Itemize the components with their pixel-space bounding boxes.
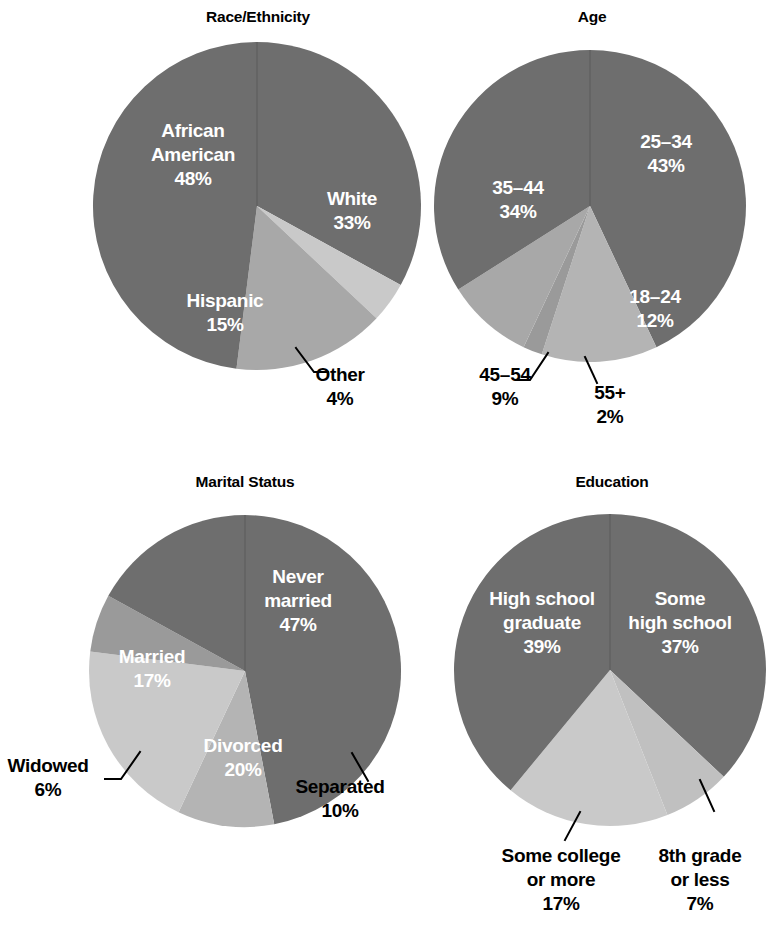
chart-title-education: Education xyxy=(575,473,648,490)
charts-canvas: Race/EthnicityWhite33%Other4%Hispanic15%… xyxy=(0,0,780,931)
pie-chart-race-ethnicity: Race/EthnicityWhite33%Other4%Hispanic15%… xyxy=(93,8,421,409)
pie-chart-figure: Race/EthnicityWhite33%Other4%Hispanic15%… xyxy=(0,0,780,931)
slice-label-some-college-or-more: Some collegeor more17% xyxy=(502,845,621,914)
slice-label-55: 55+2% xyxy=(594,382,626,427)
slice-label-45-54: 45–549% xyxy=(479,364,531,409)
pie-chart-education: EducationSomehigh school37%8th gradeor l… xyxy=(454,473,766,914)
slice-label-8th-grade-or-less: 8th gradeor less7% xyxy=(659,845,742,914)
pie-chart-age: Age25–3443%18–2412%55+2%45–549%35–4434% xyxy=(434,8,746,427)
slice-label-other: Other4% xyxy=(315,364,365,409)
slice-label-widowed: Widowed6% xyxy=(7,755,88,800)
chart-title-race-ethnicity: Race/Ethnicity xyxy=(206,8,311,25)
chart-title-age: Age xyxy=(578,8,607,25)
pie-chart-marital-status: Marital StatusNevermarried47%Separated10… xyxy=(7,473,401,827)
chart-title-marital-status: Marital Status xyxy=(196,473,295,490)
